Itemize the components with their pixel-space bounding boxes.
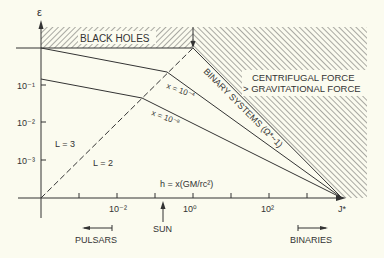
x4-label: x = 10⁻⁴ <box>165 81 196 100</box>
x8-label: x = 10⁻⁸ <box>150 108 181 127</box>
formula-label: h = x(GM/rc²) <box>160 179 213 189</box>
l2-label: L = 2 <box>93 158 113 168</box>
xtick-1: 10⁻² <box>109 204 127 214</box>
pulsars-label: PULSARS <box>75 235 117 245</box>
sun-label: SUN <box>153 224 172 234</box>
xtick-2: 10⁰ <box>183 204 197 214</box>
epsilon-label: ε <box>37 6 42 18</box>
binaries-label: BINARIES <box>290 235 332 245</box>
diagram: ε BLACK HOLES CENTRIFUGAL FORCE > GRAVIT… <box>0 0 384 258</box>
jstar-label: J* <box>338 204 347 214</box>
ytick-2: 10⁻² <box>17 118 35 128</box>
l3-label: L = 3 <box>55 139 75 149</box>
centrifugal-label-1: CENTRIFUGAL FORCE <box>252 72 355 83</box>
ytick-1: 10⁻¹ <box>17 81 35 91</box>
centrifugal-region <box>193 27 367 198</box>
ytick-3: 10⁻³ <box>17 156 35 166</box>
xtick-3: 10² <box>261 204 274 214</box>
black-holes-label: BLACK HOLES <box>80 33 150 44</box>
centrifugal-label-2: > GRAVITATIONAL FORCE <box>243 83 361 94</box>
